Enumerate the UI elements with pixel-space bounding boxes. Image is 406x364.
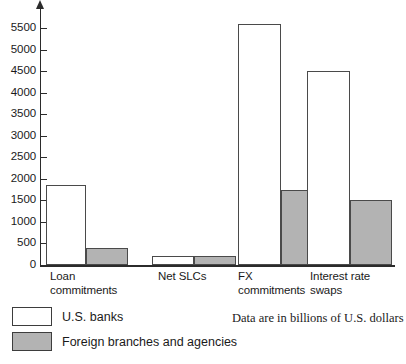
legend-label: Foreign branches and agencies: [62, 335, 237, 349]
legend-item: U.S. banks: [12, 307, 123, 326]
chart-note: Data are in billions of U.S. dollars: [232, 311, 404, 325]
bar-foreign-branches: [350, 200, 392, 265]
bar-us-banks: [307, 71, 350, 265]
category-label: Interest rate swaps: [310, 270, 402, 297]
bars-layer: [0, 0, 406, 265]
legend-swatch-foreign-branches: [12, 332, 52, 351]
legend-item: Foreign branches and agencies: [12, 332, 237, 351]
legend-label: U.S. banks: [62, 310, 123, 324]
bar-us-banks: [152, 256, 194, 265]
bar-foreign-branches: [194, 256, 236, 265]
x-axis-line: [40, 265, 395, 267]
bar-foreign-branches: [86, 248, 128, 265]
category-label: Net SLCs: [158, 270, 238, 284]
bar-us-banks: [46, 185, 86, 265]
category-label: Loan commitments: [50, 270, 145, 297]
bar-us-banks: [238, 24, 281, 265]
legend-swatch-us-banks: [12, 307, 52, 326]
y-axis-tick: [41, 265, 47, 266]
bar-chart-figure: 0500100015002000250030003500400045005000…: [0, 0, 406, 300]
